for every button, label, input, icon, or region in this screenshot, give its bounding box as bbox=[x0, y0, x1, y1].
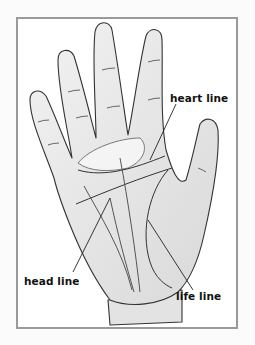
head-line-label: head line bbox=[24, 275, 80, 287]
heart-line-label: heart line bbox=[170, 92, 228, 104]
life-line-label: life line bbox=[176, 290, 221, 302]
